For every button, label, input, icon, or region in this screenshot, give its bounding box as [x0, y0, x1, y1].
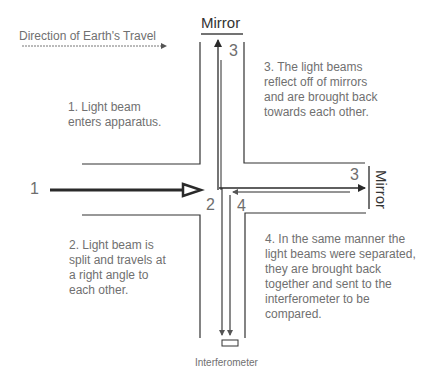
- step-4-text: 4. In the same manner the light beams we…: [265, 232, 416, 322]
- marker-2: 2: [206, 196, 215, 214]
- marker-1: 1: [30, 180, 39, 198]
- step-3-text: 3. The light beams reflect off of mirror…: [264, 60, 377, 120]
- step-2-text: 2. Light beam is split and travels at a …: [69, 238, 166, 298]
- input-beam-head: [183, 184, 201, 196]
- top-mirror-label: Mirror: [201, 14, 240, 31]
- interferometer-box: [222, 340, 238, 346]
- marker-4: 4: [237, 197, 246, 215]
- marker-3-right: 3: [350, 166, 359, 184]
- earth-direction-label: Direction of Earth's Travel: [19, 29, 156, 44]
- right-mirror-label: Mirror: [373, 170, 390, 209]
- marker-3-top: 3: [229, 42, 238, 60]
- step-1-text: 1. Light beam enters apparatus.: [68, 100, 161, 130]
- interferometer-label: Interferometer: [195, 355, 258, 370]
